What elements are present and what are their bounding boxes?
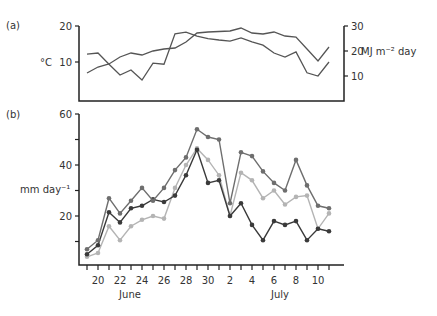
- b-x-tick-label: 10: [312, 275, 325, 286]
- panel-b-lines: [85, 127, 332, 259]
- panel-a-lines: [87, 28, 329, 80]
- data-point-marker: [140, 204, 145, 209]
- data-point-marker: [107, 210, 112, 215]
- data-point-marker: [316, 227, 321, 232]
- data-point-marker: [206, 181, 211, 186]
- data-point-marker: [118, 220, 123, 225]
- data-point-marker: [239, 170, 244, 175]
- data-point-marker: [261, 196, 266, 201]
- panel-b: (b) mm day⁻¹ 204060202224262830246810 Ju…: [6, 109, 344, 300]
- b-x-tick-label: 20: [92, 275, 105, 286]
- b-x-tick-label: 26: [158, 275, 171, 286]
- panel-b-axes: [79, 114, 344, 265]
- data-point-marker: [173, 186, 178, 191]
- b-y-tick-label: 20: [59, 211, 72, 222]
- b-x-tick-label: 2: [227, 275, 233, 286]
- data-point-marker: [294, 219, 299, 224]
- data-point-marker: [184, 173, 189, 178]
- data-point-marker: [118, 238, 123, 243]
- data-point-marker: [206, 158, 211, 163]
- data-point-marker: [140, 218, 145, 223]
- data-point-marker: [272, 181, 277, 186]
- data-point-marker: [228, 214, 233, 219]
- series-line: [87, 129, 329, 249]
- data-point-marker: [327, 211, 332, 216]
- data-point-marker: [294, 195, 299, 200]
- data-point-marker: [283, 188, 288, 193]
- data-point-marker: [327, 229, 332, 234]
- data-point-marker: [151, 198, 156, 203]
- data-point-marker: [107, 196, 112, 201]
- data-point-marker: [129, 198, 134, 203]
- data-point-marker: [228, 201, 233, 206]
- data-point-marker: [184, 155, 189, 160]
- data-point-marker: [151, 214, 156, 219]
- b-x-tick-label: 24: [136, 275, 149, 286]
- data-point-marker: [129, 206, 134, 211]
- data-point-marker: [239, 150, 244, 155]
- a-right-tick-label: 30: [351, 21, 364, 32]
- panel-b-unit: mm day⁻¹: [20, 184, 70, 195]
- data-point-marker: [162, 216, 167, 221]
- panel-a: (a) °C MJ m⁻² day 1020102030: [6, 20, 416, 101]
- data-point-marker: [118, 211, 123, 216]
- a-right-tick-label: 10: [351, 71, 364, 82]
- panel-b-unit-text: mm day⁻¹: [20, 184, 70, 195]
- b-y-tick-label: 40: [59, 160, 72, 171]
- data-point-marker: [96, 243, 101, 248]
- data-point-marker: [107, 224, 112, 229]
- panel-a-label: (a): [6, 20, 20, 31]
- data-point-marker: [217, 137, 222, 142]
- a-left-tick-label: 20: [59, 21, 72, 32]
- panel-a-frame: [79, 26, 344, 101]
- panel-a-ticks: 1020102030: [59, 21, 363, 82]
- data-point-marker: [272, 188, 277, 193]
- data-point-marker: [239, 201, 244, 206]
- data-point-marker: [85, 252, 90, 257]
- b-y-tick-label: 60: [59, 109, 72, 120]
- climate-evaporation-chart: (a) °C MJ m⁻² day 1020102030 (b) mm day⁻…: [0, 0, 437, 316]
- panel-a-right-unit: MJ m⁻² day: [361, 46, 416, 57]
- data-point-marker: [217, 178, 222, 183]
- data-point-marker: [250, 178, 255, 183]
- panel-b-label: (b): [6, 109, 20, 120]
- data-point-marker: [140, 186, 145, 191]
- b-x-tick-label: 22: [114, 275, 127, 286]
- b-x-tick-label: 8: [293, 275, 299, 286]
- b-x-tick-label: 4: [249, 275, 255, 286]
- data-point-marker: [272, 219, 277, 224]
- line-radiation: [87, 28, 329, 73]
- data-point-marker: [305, 193, 310, 198]
- data-point-marker: [305, 238, 310, 243]
- data-point-marker: [316, 204, 321, 209]
- b-x-tick-label: 30: [202, 275, 215, 286]
- data-point-marker: [184, 163, 189, 168]
- data-point-marker: [327, 206, 332, 211]
- data-point-marker: [129, 224, 134, 229]
- data-point-marker: [305, 183, 310, 188]
- a-right-tick-label: 20: [351, 46, 364, 57]
- data-point-marker: [162, 200, 167, 205]
- data-point-marker: [96, 251, 101, 256]
- data-point-marker: [206, 135, 211, 140]
- data-point-marker: [85, 247, 90, 252]
- series-line: [87, 150, 329, 255]
- data-point-marker: [261, 169, 266, 174]
- data-point-marker: [195, 127, 200, 132]
- month-label-july: July: [270, 289, 289, 300]
- data-point-marker: [261, 238, 266, 243]
- series-series-medium: [85, 127, 332, 252]
- b-x-tick-label: 28: [180, 275, 193, 286]
- data-point-marker: [283, 202, 288, 207]
- data-point-marker: [294, 158, 299, 163]
- data-point-marker: [96, 238, 101, 243]
- data-point-marker: [173, 193, 178, 198]
- series-line: [87, 148, 329, 256]
- b-x-tick-label: 6: [271, 275, 277, 286]
- data-point-marker: [250, 154, 255, 159]
- data-point-marker: [217, 173, 222, 178]
- data-point-marker: [162, 186, 167, 191]
- data-point-marker: [195, 147, 200, 152]
- month-label-june: June: [118, 289, 141, 300]
- data-point-marker: [250, 223, 255, 228]
